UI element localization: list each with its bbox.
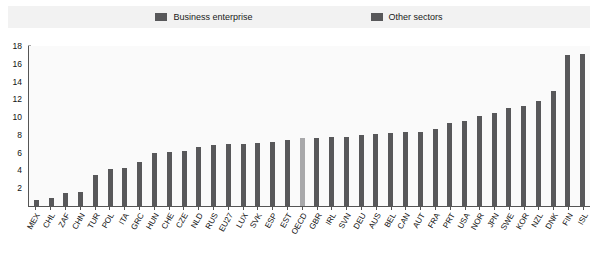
x-axis-tick-label: HUN bbox=[145, 212, 161, 231]
x-axis-labels: MEXCHLZAFCHNTURPOLITAGRCHUNCHECZENLDRUSE… bbox=[28, 207, 590, 261]
x-axis-tick-mark bbox=[376, 207, 377, 210]
bar[interactable] bbox=[447, 123, 452, 206]
bar[interactable] bbox=[255, 143, 260, 206]
y-axis-tick-label: 18 bbox=[13, 42, 22, 51]
bar-slot bbox=[310, 46, 325, 206]
legend-entry-other-sectors: Other sectors bbox=[371, 13, 443, 22]
legend-label-business-enterprise: Business enterprise bbox=[173, 13, 252, 22]
x-axis-tick-label: GRC bbox=[130, 212, 146, 231]
bar[interactable] bbox=[462, 121, 467, 206]
x-axis-tick-label: ISL bbox=[577, 212, 590, 226]
bar[interactable] bbox=[344, 137, 349, 206]
x-axis-tick-mark bbox=[139, 207, 140, 210]
bar[interactable] bbox=[226, 144, 231, 206]
bar[interactable] bbox=[403, 132, 408, 206]
bar[interactable] bbox=[108, 169, 113, 206]
bar-slot bbox=[191, 46, 206, 206]
bar-slot bbox=[73, 46, 88, 206]
bar[interactable] bbox=[167, 152, 172, 206]
x-axis-tick-label: SVN bbox=[338, 212, 353, 230]
bar-slot bbox=[546, 46, 561, 206]
bar-slot bbox=[206, 46, 221, 206]
x-axis-tick-mark bbox=[479, 207, 480, 210]
bar-slot bbox=[29, 46, 44, 206]
bar-slot bbox=[487, 46, 502, 206]
x-axis-label-slot: RUS bbox=[206, 207, 221, 261]
x-axis-label-slot: SVN bbox=[339, 207, 354, 261]
x-axis-tick-mark bbox=[183, 207, 184, 210]
bar-slot bbox=[280, 46, 295, 206]
bar[interactable] bbox=[49, 198, 54, 206]
x-axis-label-slot: ESP bbox=[265, 207, 280, 261]
bar-slot bbox=[295, 46, 310, 206]
bar-slot bbox=[118, 46, 133, 206]
x-axis-label-slot: NLD bbox=[191, 207, 206, 261]
bar[interactable] bbox=[78, 192, 83, 206]
x-axis-tick-mark bbox=[509, 207, 510, 210]
bar[interactable] bbox=[551, 91, 556, 206]
x-axis-tick-label: CHN bbox=[71, 212, 87, 231]
x-axis-label-slot: DEU bbox=[354, 207, 369, 261]
bar[interactable] bbox=[359, 135, 364, 206]
x-axis-tick-label: ESP bbox=[264, 212, 279, 230]
x-axis-tick-mark bbox=[346, 207, 347, 210]
x-axis-label-slot: DNK bbox=[546, 207, 561, 261]
bar-series bbox=[29, 46, 590, 206]
bar[interactable] bbox=[93, 175, 98, 206]
bar[interactable] bbox=[506, 108, 511, 206]
chart-legend: Business enterprise Other sectors bbox=[8, 6, 590, 28]
bar[interactable] bbox=[270, 142, 275, 206]
y-axis-tick-label: 2 bbox=[17, 184, 22, 193]
x-axis-tick-label: KOR bbox=[515, 212, 531, 231]
bar[interactable] bbox=[211, 145, 216, 206]
x-axis-tick-label: NLD bbox=[190, 212, 205, 230]
bar[interactable] bbox=[182, 151, 187, 206]
legend-label-other-sectors: Other sectors bbox=[389, 13, 443, 22]
bar[interactable] bbox=[63, 193, 68, 206]
bar[interactable] bbox=[373, 134, 378, 206]
x-axis-label-slot: AUS bbox=[368, 207, 383, 261]
x-axis-tick-mark bbox=[287, 207, 288, 210]
x-axis-label-slot: ZAF bbox=[58, 207, 73, 261]
bar-slot bbox=[265, 46, 280, 206]
y-axis-tick-label: 10 bbox=[13, 113, 22, 122]
bar[interactable] bbox=[241, 144, 246, 206]
bar[interactable] bbox=[418, 132, 423, 206]
bar[interactable] bbox=[300, 138, 305, 206]
x-axis-label-slot: CAN bbox=[398, 207, 413, 261]
bar[interactable] bbox=[285, 140, 290, 206]
x-axis-label-slot: ISL bbox=[575, 207, 590, 261]
x-axis-tick-label: FRA bbox=[427, 212, 442, 230]
bar[interactable] bbox=[580, 54, 585, 206]
bar[interactable] bbox=[388, 133, 393, 206]
bar[interactable] bbox=[492, 113, 497, 206]
x-axis-tick-label: NZL bbox=[531, 212, 545, 229]
x-axis-label-slot: FRA bbox=[428, 207, 443, 261]
bar-slot bbox=[250, 46, 265, 206]
bar[interactable] bbox=[329, 137, 334, 206]
x-axis-tick-label: ITA bbox=[118, 212, 131, 226]
bar[interactable] bbox=[477, 116, 482, 206]
bar[interactable] bbox=[565, 55, 570, 206]
bar[interactable] bbox=[122, 168, 127, 206]
bar[interactable] bbox=[314, 138, 319, 206]
bar[interactable] bbox=[152, 153, 157, 206]
x-axis-label-slot: LUX bbox=[235, 207, 250, 261]
x-axis-tick-mark bbox=[65, 207, 66, 210]
y-axis-tick-label: 16 bbox=[13, 60, 22, 69]
bar-slot bbox=[398, 46, 413, 206]
bar-slot bbox=[531, 46, 546, 206]
x-axis-tick-mark bbox=[538, 207, 539, 210]
x-axis-tick-label: CAN bbox=[397, 212, 412, 231]
bar[interactable] bbox=[433, 129, 438, 206]
bar-slot bbox=[413, 46, 428, 206]
x-axis-label-slot: OECD bbox=[294, 207, 309, 261]
bar[interactable] bbox=[196, 147, 201, 206]
bar[interactable] bbox=[521, 106, 526, 206]
x-axis-tick-mark bbox=[272, 207, 273, 210]
x-axis-tick-label: GBR bbox=[308, 212, 324, 231]
bar[interactable] bbox=[137, 162, 142, 206]
bar[interactable] bbox=[536, 101, 541, 206]
x-axis-label-slot: JPN bbox=[487, 207, 502, 261]
bar-slot bbox=[516, 46, 531, 206]
